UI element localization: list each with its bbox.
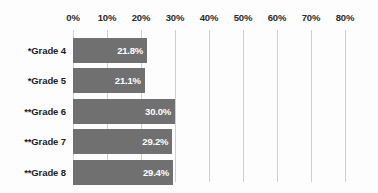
x-tick-label: 70%: [302, 12, 320, 23]
x-tick-label: 10%: [98, 12, 116, 23]
x-tick-label: 20%: [132, 12, 150, 23]
bar-row: **Grade 829.4%: [73, 160, 345, 185]
bar-value-label: 29.2%: [142, 129, 168, 154]
x-tick-label: 80%: [336, 12, 354, 23]
bar: 29.2%: [73, 129, 172, 154]
bar-row: **Grade 729.2%: [73, 129, 345, 154]
bar-value-label: 21.1%: [115, 68, 141, 93]
bar-rows: *Grade 421.8%*Grade 521.1%**Grade 630.0%…: [73, 30, 345, 182]
x-tick-label: 30%: [166, 12, 184, 23]
bar-row: **Grade 630.0%: [73, 99, 345, 124]
bar-row: *Grade 521.1%: [73, 68, 345, 93]
category-label: *Grade 5: [28, 68, 66, 93]
gridline: [345, 30, 346, 182]
category-label: **Grade 8: [24, 160, 66, 185]
x-tick-label: 40%: [200, 12, 218, 23]
plot-area: *Grade 421.8%*Grade 521.1%**Grade 630.0%…: [73, 30, 345, 182]
bar: 29.4%: [73, 160, 173, 185]
bar-chart: 0%10%20%30%40%50%60%70%80% *Grade 421.8%…: [0, 0, 378, 193]
x-tick-label: 60%: [268, 12, 286, 23]
bar: 30.0%: [73, 99, 175, 124]
bar: 21.8%: [73, 38, 147, 63]
x-axis-tick-labels: 0%10%20%30%40%50%60%70%80%: [0, 0, 378, 30]
x-tick-label: 50%: [234, 12, 252, 23]
category-label: *Grade 4: [28, 38, 66, 63]
bar-value-label: 29.4%: [143, 160, 169, 185]
bar-row: *Grade 421.8%: [73, 38, 345, 63]
bar-value-label: 21.8%: [117, 38, 143, 63]
category-label: **Grade 7: [24, 129, 66, 154]
bar: 21.1%: [73, 68, 145, 93]
x-tick-label: 0%: [66, 12, 79, 23]
category-label: **Grade 6: [24, 99, 66, 124]
bar-value-label: 30.0%: [145, 99, 171, 124]
